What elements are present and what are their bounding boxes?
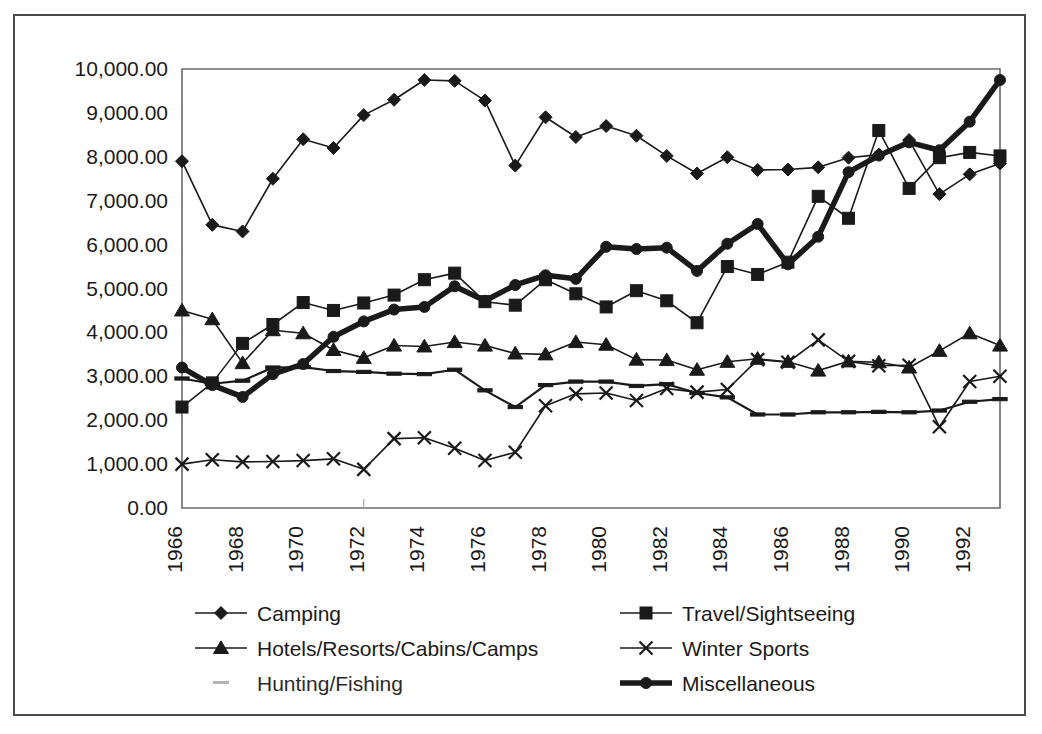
data-point-marker (237, 337, 249, 349)
data-point-marker (448, 74, 461, 87)
data-point-marker (237, 391, 248, 402)
data-point-marker (661, 242, 672, 253)
y-tick-label: 1,000.00 (86, 452, 168, 475)
data-point-marker (297, 133, 310, 146)
data-point-marker (175, 377, 189, 380)
data-point-marker (629, 384, 643, 387)
y-tick-label: 5,000.00 (86, 277, 168, 300)
y-tick-label: 3,000.00 (86, 364, 168, 387)
data-point-marker (932, 344, 947, 357)
x-tick-label: 1968 (224, 526, 247, 573)
data-point-marker (509, 159, 522, 172)
legend-marker-dash (213, 681, 229, 684)
data-point-marker (297, 297, 309, 309)
data-point-marker (630, 129, 643, 142)
y-tick-label: 4,000.00 (86, 320, 168, 343)
data-point-marker (691, 317, 703, 329)
x-tick-label: 1970 (284, 526, 307, 573)
data-point-marker (722, 238, 733, 249)
x-tick-label: 1972 (345, 526, 368, 573)
data-point-marker (720, 396, 734, 399)
legend-label: Camping (257, 602, 341, 625)
data-point-marker (629, 352, 644, 365)
legend-label: Travel/Sightseeing (682, 602, 855, 625)
series-hunting-fishing (175, 365, 1007, 416)
data-point-marker (660, 383, 674, 386)
data-point-marker (842, 151, 855, 164)
data-point-marker (993, 398, 1007, 401)
data-point-marker (570, 273, 581, 284)
data-point-marker (267, 369, 278, 380)
x-tick-label: 1988 (830, 526, 853, 573)
y-tick-label: 9,000.00 (86, 101, 168, 124)
data-point-marker (478, 389, 492, 392)
data-point-marker (781, 413, 795, 416)
legend-item-travel-sightseeing[interactable]: Travel/Sightseeing (620, 602, 855, 625)
data-point-marker (266, 172, 279, 185)
data-point-marker (418, 274, 430, 286)
data-point-marker (843, 212, 855, 224)
x-axis-tick-labels: 1966196819701972197419761978198019821984… (163, 526, 974, 573)
legend-item-hunting-fishing[interactable]: Hunting/Fishing (213, 672, 403, 695)
data-point-marker (873, 150, 884, 161)
data-point-marker (691, 167, 704, 180)
legend-label: Miscellaneous (682, 672, 815, 695)
legend-item-hotels-resorts-cabins-camps[interactable]: Hotels/Resorts/Cabins/Camps (195, 637, 538, 660)
data-point-marker (963, 400, 977, 403)
data-point-marker (387, 338, 402, 351)
data-point-marker (387, 372, 401, 375)
legend-label: Hotels/Resorts/Cabins/Camps (257, 637, 538, 660)
data-point-marker (601, 241, 612, 252)
data-point-marker (812, 161, 825, 174)
data-point-marker (934, 145, 945, 156)
data-point-marker (964, 146, 976, 158)
data-point-marker (235, 379, 249, 382)
data-point-marker (841, 411, 855, 414)
data-point-marker (630, 285, 642, 297)
data-point-marker (539, 399, 552, 412)
data-point-marker (206, 218, 219, 231)
data-point-marker (631, 243, 642, 254)
data-point-marker (781, 163, 794, 176)
data-point-marker (962, 326, 977, 339)
y-tick-label: 8,000.00 (86, 145, 168, 168)
data-point-marker (599, 380, 613, 383)
data-point-marker (298, 359, 309, 370)
data-point-marker (661, 295, 673, 307)
data-point-marker (903, 182, 915, 194)
x-tick-label: 1982 (648, 526, 671, 573)
series-miscellaneous (177, 74, 1006, 402)
data-point-marker (328, 331, 339, 342)
legend-item-winter-sports[interactable]: Winter Sports (620, 637, 809, 660)
data-point-marker (813, 231, 824, 242)
data-point-marker (641, 678, 652, 689)
data-point-marker (508, 405, 522, 408)
data-point-marker (177, 362, 188, 373)
data-point-marker (388, 93, 401, 106)
data-point-marker (510, 279, 521, 290)
data-point-marker (389, 304, 400, 315)
data-series-group (175, 73, 1008, 475)
data-point-marker (872, 410, 886, 413)
legend-item-miscellaneous[interactable]: Miscellaneous (620, 672, 815, 695)
data-point-marker (509, 446, 522, 459)
data-point-marker (419, 301, 430, 312)
data-point-marker (752, 218, 763, 229)
series-winter-sports (176, 333, 1007, 476)
x-tick-label: 1990 (890, 526, 913, 573)
x-tick-label: 1976 (466, 526, 489, 573)
data-point-marker (995, 74, 1006, 85)
legend-item-camping[interactable]: Camping (195, 602, 341, 625)
data-point-marker (357, 463, 370, 476)
data-point-marker (176, 401, 188, 413)
data-point-marker (690, 391, 704, 394)
data-point-marker (448, 368, 462, 371)
data-point-marker (568, 335, 583, 348)
y-tick-label: 0.00 (127, 496, 168, 519)
data-point-marker (933, 420, 946, 433)
data-point-marker (418, 73, 431, 86)
data-point-marker (812, 190, 824, 202)
data-point-marker (358, 297, 370, 309)
x-tick-label: 1986 (769, 526, 792, 573)
data-point-marker (447, 335, 462, 348)
